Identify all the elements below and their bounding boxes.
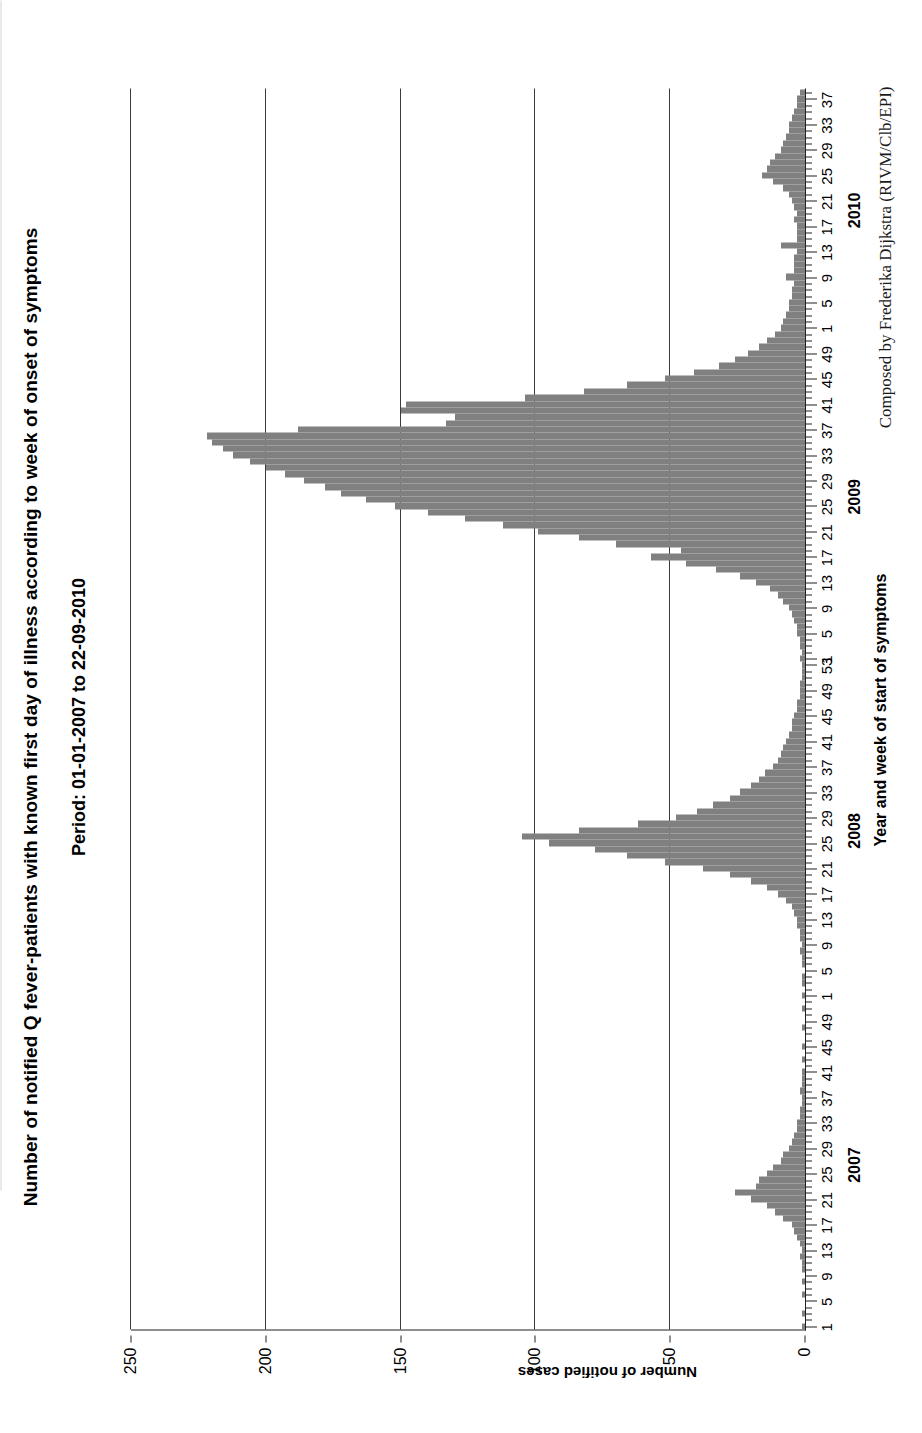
x-axis-week-label	[818, 955, 840, 961]
bar	[406, 401, 805, 407]
x-axis-week-label	[818, 363, 840, 369]
y-axis-tick-label: 200	[257, 1347, 275, 1374]
x-axis-week-label: 21	[818, 529, 840, 535]
x-axis-week-label	[818, 541, 840, 547]
y-axis-tick	[670, 1335, 671, 1342]
bar	[730, 795, 805, 801]
x-axis-tick	[806, 427, 813, 433]
bar	[748, 350, 805, 356]
x-axis-tick	[806, 192, 813, 198]
chart-title: Number of notified Q fever-patients with…	[18, 227, 43, 1207]
x-axis-tick	[806, 1285, 813, 1291]
bar	[802, 1024, 805, 1030]
x-axis-week-label	[818, 726, 840, 732]
x-axis-tick	[806, 1228, 813, 1234]
bar	[802, 1265, 805, 1271]
x-axis-tick	[806, 1127, 813, 1133]
x-axis-tick	[806, 1114, 813, 1120]
bar	[713, 801, 805, 807]
bar	[773, 763, 805, 769]
x-axis-week-label	[818, 160, 840, 166]
bar	[789, 305, 805, 311]
x-axis-tick	[806, 1082, 813, 1088]
bar	[800, 1240, 805, 1246]
bar	[789, 299, 805, 305]
x-axis-tick	[806, 624, 813, 630]
x-axis-tick	[806, 503, 813, 509]
bar	[794, 203, 805, 209]
x-axis-tick	[806, 217, 813, 223]
x-axis-tick	[806, 389, 813, 395]
x-axis-week-label	[818, 1037, 840, 1043]
x-axis-tick	[806, 980, 813, 986]
x-axis-tick	[806, 211, 813, 217]
y-axis-tick	[400, 1335, 401, 1342]
x-axis-tick	[806, 637, 813, 643]
x-axis-week-label	[818, 344, 840, 350]
bar	[802, 1291, 805, 1297]
x-axis-week-label	[818, 115, 840, 121]
x-axis-week-label	[818, 491, 840, 497]
bar	[759, 343, 805, 349]
x-axis-tick	[806, 961, 813, 967]
bar	[802, 1278, 805, 1284]
bar	[786, 897, 805, 903]
x-axis-tick	[806, 999, 813, 1005]
x-axis-week-label	[818, 599, 840, 605]
bar	[767, 165, 805, 171]
x-axis-tick	[806, 287, 813, 293]
x-axis-tick	[806, 516, 813, 522]
x-axis-tick	[806, 173, 813, 179]
bar	[756, 1183, 805, 1189]
bar-series	[131, 88, 805, 1329]
x-axis-year-label: 2008	[846, 813, 864, 849]
x-axis-tick	[806, 313, 813, 319]
x-axis-tick	[806, 363, 813, 369]
bar	[765, 769, 805, 775]
bar	[797, 1126, 805, 1132]
x-axis-tick	[806, 1273, 813, 1279]
x-axis-week-label	[818, 1012, 840, 1018]
x-axis-week-label: 25	[818, 173, 840, 179]
x-axis-week-label	[818, 853, 840, 859]
bar	[212, 439, 805, 445]
bar	[797, 922, 805, 928]
bar	[789, 191, 805, 197]
bar	[395, 502, 805, 508]
x-axis-tick	[806, 338, 813, 344]
x-axis-week-label	[818, 370, 840, 376]
bar	[285, 470, 805, 476]
x-axis-week-label	[818, 834, 840, 840]
x-axis-week-label: 13	[818, 1247, 840, 1253]
x-axis-tick	[806, 1012, 813, 1018]
x-axis-tick	[806, 249, 813, 255]
bar	[789, 121, 805, 127]
x-axis-tick	[806, 465, 813, 471]
x-axis-week-label: 13	[818, 580, 840, 586]
bar	[802, 1056, 805, 1062]
bar	[735, 356, 805, 362]
x-axis-tick	[806, 561, 813, 567]
x-axis-tick	[806, 1209, 813, 1215]
bar	[802, 1259, 805, 1265]
bar	[770, 159, 805, 165]
x-axis-tick	[806, 160, 813, 166]
chart-subtitle: Period: 01-01-2007 to 22-09-2010	[69, 0, 90, 1433]
x-axis-tick	[806, 370, 813, 376]
x-axis-week-label: 9	[818, 274, 840, 280]
x-axis-tick	[806, 471, 813, 477]
bar	[781, 750, 805, 756]
chart-figure: Number of notified Q fever-patients with…	[0, 0, 922, 1433]
x-axis-tick	[806, 535, 813, 541]
bar	[250, 458, 805, 464]
x-axis-tick	[806, 885, 813, 891]
bar	[638, 820, 805, 826]
x-axis-week-label	[818, 567, 840, 573]
x-axis-tick	[806, 446, 813, 452]
x-axis-week-label	[818, 465, 840, 471]
bar	[802, 1005, 805, 1011]
bar	[786, 738, 805, 744]
x-axis-tick	[806, 204, 813, 210]
bar	[800, 89, 805, 95]
x-axis-tick	[806, 669, 813, 675]
